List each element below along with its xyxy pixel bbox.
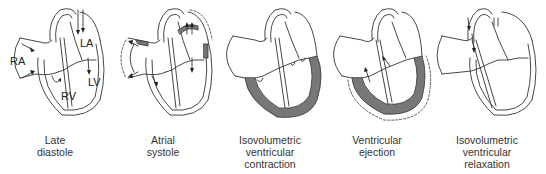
heart-outline <box>121 9 212 116</box>
caption-line: relaxation <box>432 158 542 170</box>
heart-ventricular-ejection <box>322 0 432 125</box>
flow-arrows <box>364 56 390 82</box>
heart-outline <box>14 9 104 116</box>
caption-line: contraction <box>215 158 325 170</box>
panel-atrial-systole: Atrial systole <box>108 0 218 174</box>
panel-ventricular-ejection: Ventricular ejection <box>322 0 432 174</box>
heart-outline <box>437 9 536 116</box>
caption-isovolumetric-contraction: Isovolumetric ventricular contraction <box>215 134 325 170</box>
label-ra: RA <box>10 55 25 67</box>
caption-ventricular-ejection: Ventricular ejection <box>322 134 432 158</box>
panel-isovolumetric-contraction: Isovolumetric ventricular contraction <box>215 0 325 174</box>
caption-line: systole <box>108 146 218 158</box>
caption-line: diastole <box>0 146 110 158</box>
panel-late-diastole: RA LA RV LV Late diastole <box>0 0 110 174</box>
caption-line: Isovolumetric <box>215 134 325 146</box>
heart-isovolumetric-relaxation <box>432 0 542 125</box>
panel-isovolumetric-relaxation: Isovolumetric ventricular relaxation <box>432 0 542 174</box>
caption-line: Late <box>0 134 110 146</box>
heart-isovolumetric-contraction <box>215 0 325 125</box>
caption-atrial-systole: Atrial systole <box>108 134 218 158</box>
caption-isovolumetric-relaxation: Isovolumetric ventricular relaxation <box>432 134 542 170</box>
label-lv: LV <box>88 76 101 88</box>
caption-line: ventricular <box>432 146 542 158</box>
caption-line: Atrial <box>108 134 218 146</box>
caption-line: Isovolumetric <box>432 134 542 146</box>
flow-arrows <box>128 22 194 87</box>
label-rv: RV <box>61 90 76 102</box>
caption-late-diastole: Late diastole <box>0 134 110 158</box>
heart-atrial-systole <box>108 0 218 125</box>
label-la: LA <box>80 37 93 49</box>
caption-line: ejection <box>322 146 432 158</box>
caption-line: ventricular <box>215 146 325 158</box>
heart-outline <box>226 9 317 108</box>
caption-line: Ventricular <box>322 134 432 146</box>
